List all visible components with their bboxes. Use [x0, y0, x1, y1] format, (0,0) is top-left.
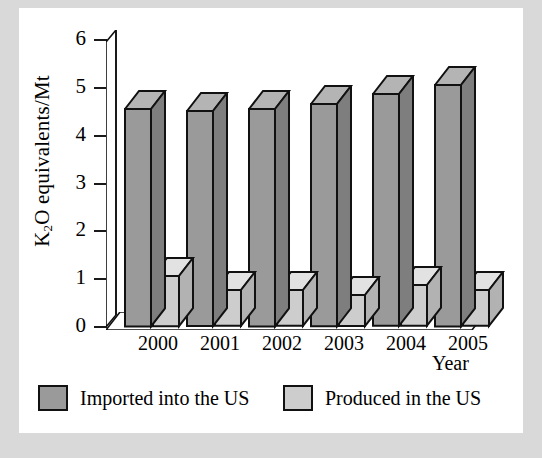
- figure-root: K2O equivalents/Mt Year 0123456 20002001…: [0, 0, 542, 458]
- x-tick-label: 2002: [247, 333, 317, 353]
- y-axis-title: K2O equivalents/Mt: [30, 56, 56, 266]
- y-tick-label: 2: [60, 219, 86, 240]
- y-axis-title-sub: 2: [40, 225, 55, 232]
- bar-imported-2000[interactable]: [124, 90, 168, 329]
- legend-swatch-produced: [283, 385, 313, 411]
- legend-item-imported[interactable]: Imported into the US: [38, 385, 249, 411]
- y-axis-title-post: O equivalents/Mt: [30, 75, 54, 225]
- x-tick-label: 2001: [185, 333, 255, 353]
- legend-swatch-imported: [38, 385, 68, 411]
- x-tick-label: 2004: [371, 333, 441, 353]
- chart-legend: Imported into the US Produced in the US: [38, 385, 508, 419]
- x-tick-label: 2005: [433, 333, 503, 353]
- legend-item-produced[interactable]: Produced in the US: [283, 385, 481, 411]
- plot-area: K2O equivalents/Mt Year 0123456 20002001…: [0, 0, 542, 458]
- legend-label-produced: Produced in the US: [325, 387, 481, 410]
- y-tick-label: 4: [60, 124, 86, 145]
- y-tick-label: 6: [60, 28, 86, 49]
- y-tick-label: 3: [60, 172, 86, 193]
- x-tick-label: 2003: [309, 333, 379, 353]
- y-axis-title-pre: K: [30, 231, 54, 246]
- x-axis-title: Year: [432, 352, 469, 375]
- y-tick-label: 0: [60, 315, 86, 336]
- x-tick-label: 2000: [123, 333, 193, 353]
- legend-label-imported: Imported into the US: [80, 387, 249, 410]
- y-tick-label: 5: [60, 76, 86, 97]
- y-tick-label: 1: [60, 267, 86, 288]
- y-axis-spine: [106, 30, 118, 327]
